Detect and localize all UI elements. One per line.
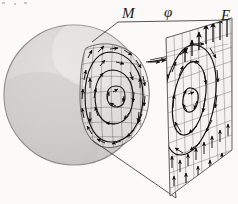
label-E: E [221, 8, 230, 23]
scan-artifact [14, 3, 16, 5]
figure-canvas: M φ E [0, 0, 238, 204]
label-M: M [122, 6, 135, 21]
scan-artifact [24, 2, 27, 4]
plane-group [163, 10, 233, 196]
projection-ray-top [118, 20, 232, 22]
figure-drawing [0, 0, 238, 204]
projection-ray-lower [92, 140, 176, 198]
label-phi: φ [164, 5, 172, 20]
scan-artifact [2, 2, 5, 4]
